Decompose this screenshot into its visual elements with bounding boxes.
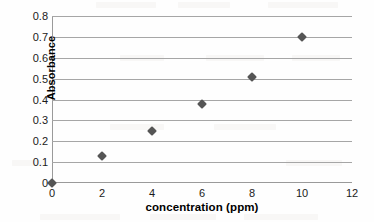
- gridline-0.6: [52, 58, 352, 59]
- y-tick-label: 0.7: [0, 32, 48, 43]
- x-axis-title: concentration (ppm): [52, 201, 352, 213]
- x-axis-line: [52, 182, 352, 183]
- x-tick-label: 0: [49, 188, 55, 199]
- gridline-0.7: [52, 37, 352, 38]
- y-tick-label: 0.6: [0, 53, 48, 64]
- gridline-0.8: [52, 16, 352, 17]
- scan-artifact: [268, 2, 338, 8]
- y-tick-label: 0: [0, 178, 48, 189]
- scan-artifact: [96, 2, 156, 8]
- y-tick-label: 0.2: [0, 136, 48, 147]
- y-tick-label: 0.1: [0, 157, 48, 168]
- plot-area: [52, 16, 352, 183]
- y-tick-label: 0.5: [0, 74, 48, 85]
- x-tick-label: 4: [149, 188, 155, 199]
- x-tick-label: 8: [249, 188, 255, 199]
- gridline-0.5: [52, 79, 352, 80]
- data-point: [147, 126, 157, 136]
- gridline-0.2: [52, 141, 352, 142]
- y-tick-label: 0.8: [0, 11, 48, 22]
- gridline-0.1: [52, 162, 352, 163]
- y-tick-label: 0.3: [0, 115, 48, 126]
- gridline-0.3: [52, 120, 352, 121]
- scan-artifact: [150, 214, 216, 220]
- data-point: [297, 32, 307, 42]
- x-tick-label: 2: [99, 188, 105, 199]
- scan-artifact: [40, 214, 120, 220]
- scan-artifact: [244, 214, 318, 220]
- x-tick-label: 12: [346, 188, 358, 199]
- y-axis-title: Absorbance: [45, 13, 57, 123]
- data-point: [97, 151, 107, 161]
- x-tick-label: 6: [199, 188, 205, 199]
- scan-artifact: [178, 2, 230, 8]
- absorbance-calibration-chart: 00.10.20.30.40.50.60.70.8 024681012 Abso…: [0, 0, 374, 222]
- x-tick-label: 10: [296, 188, 308, 199]
- y-tick-label: 0.4: [0, 95, 48, 106]
